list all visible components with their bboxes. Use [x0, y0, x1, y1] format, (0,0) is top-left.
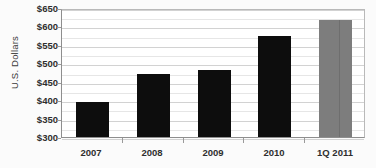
plot-area	[61, 9, 365, 138]
bars-layer	[62, 10, 364, 137]
x-axis-tick-label: 2008	[141, 147, 162, 158]
y-axis-tick-mark	[57, 120, 61, 121]
y-axis-tick-label: $600	[20, 23, 58, 33]
y-axis-tick-mark	[57, 64, 61, 65]
x-axis-tick-label: 2007	[80, 147, 101, 158]
y-axis-tick-label: $450	[20, 78, 58, 88]
y-axis-tick-mark	[57, 9, 61, 10]
x-axis-tick-label: 2010	[263, 147, 284, 158]
y-axis-tick-mark	[57, 46, 61, 47]
x-axis-tick-mark	[304, 138, 305, 143]
y-axis-title: U.S. Dollars	[9, 28, 20, 98]
x-axis-tick-marks	[61, 138, 365, 144]
bar-2009	[198, 70, 231, 137]
y-axis-tick-mark	[57, 83, 61, 84]
x-axis-tick-labels: 20072008200920101Q 2011	[61, 147, 365, 163]
x-axis-tick-mark	[183, 138, 184, 143]
y-axis-tick-labels: $300$350$400$450$500$550$600$650	[20, 9, 58, 138]
bar-1q-2011	[319, 20, 352, 137]
bar-2007	[76, 102, 109, 137]
y-axis-tick-label: $300	[20, 133, 58, 143]
x-axis-tick-mark	[122, 138, 123, 143]
bar-2010	[258, 36, 291, 137]
y-axis-tick-label: $350	[20, 115, 58, 125]
x-axis-tick-label: 1Q 2011	[317, 147, 353, 158]
x-axis-tick-mark	[243, 138, 244, 143]
bar-2008	[137, 74, 170, 137]
y-axis-tick-mark	[57, 27, 61, 28]
y-axis-tick-label: $550	[20, 41, 58, 51]
x-axis-tick-label: 2009	[202, 147, 223, 158]
y-axis-tick-mark	[57, 138, 61, 139]
bar-chart: U.S. Dollars $300$350$400$450$500$550$60…	[0, 0, 376, 168]
y-axis-tick-label: $500	[20, 60, 58, 70]
y-axis-tick-label: $650	[20, 4, 58, 14]
y-axis-tick-label: $400	[20, 96, 58, 106]
y-axis-tick-mark	[57, 101, 61, 102]
